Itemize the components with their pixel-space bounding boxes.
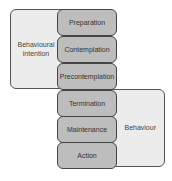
stage-label: Action <box>77 152 96 159</box>
label-line-2: intention <box>15 49 57 58</box>
stage-contemplation: Contemplation <box>57 36 117 63</box>
stage-action: Action <box>57 142 117 169</box>
stage-precontemplation: Precontemplation <box>57 63 117 90</box>
stage-termination: Termination <box>57 90 117 117</box>
behavioural-intention-label: Behavioural intention <box>15 40 57 59</box>
stage-label: Termination <box>69 100 105 107</box>
stage-label: Precontemplation <box>60 73 114 80</box>
label-line-1: Behavioural <box>15 40 57 49</box>
stage-label: Maintenance <box>67 126 107 133</box>
stage-label: Preparation <box>69 19 105 26</box>
stage-label: Contemplation <box>64 46 109 53</box>
stage-preparation: Preparation <box>57 9 117 36</box>
behaviour-label: Behaviour <box>124 123 156 132</box>
stage-maintenance: Maintenance <box>57 116 117 143</box>
